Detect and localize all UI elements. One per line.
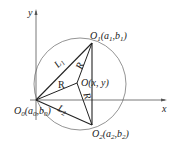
- segment-L1-label: L1: [51, 55, 67, 71]
- segment-L1: [36, 43, 92, 100]
- x-axis-label: x: [161, 103, 167, 114]
- x-axis-arrow-icon: [161, 99, 167, 102]
- radius-label-top: R: [73, 61, 86, 71]
- radius-O-O0: [36, 83, 77, 100]
- circle-geometry-diagram: y x O1(a1,b1) O0(a0,b0) O2(a2,b2) O(x, y…: [0, 0, 178, 149]
- radius-label-left: R: [58, 79, 65, 90]
- point-O0-label: O0(a0,b0): [14, 105, 52, 118]
- circumcircle: [34, 38, 126, 130]
- y-axis-arrow-icon: [35, 9, 38, 15]
- segment-L2-label: L2: [54, 102, 69, 118]
- point-O2-label: O2(a2,b2): [92, 128, 130, 141]
- radius-O-O2: [77, 83, 92, 125]
- y-axis-label: y: [27, 7, 33, 18]
- center-O-label: O(x, y): [81, 77, 109, 89]
